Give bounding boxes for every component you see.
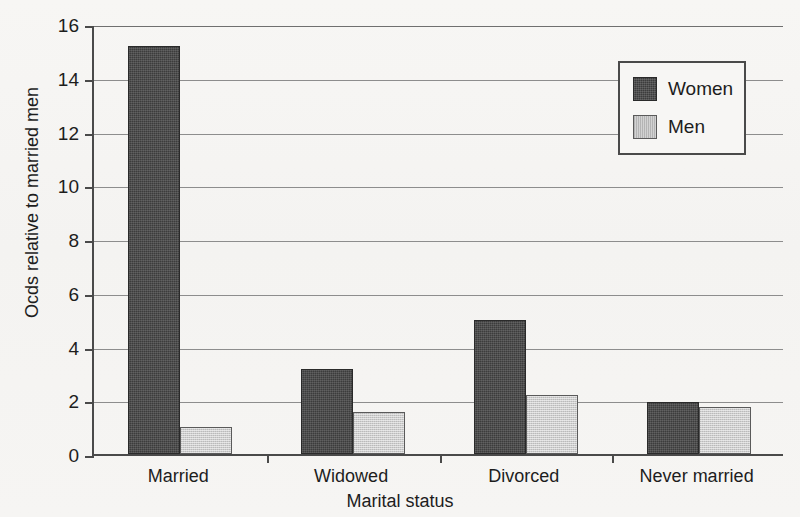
y-axis-tick xyxy=(85,187,94,189)
gridline xyxy=(94,349,783,350)
x-axis-label-widowed: Widowed xyxy=(314,466,388,487)
y-axis-tick xyxy=(85,349,94,351)
x-axis-label-divorced: Divorced xyxy=(488,466,559,487)
y-axis-tick xyxy=(85,134,94,136)
x-axis-title: Marital status xyxy=(0,491,800,512)
y-axis-tick xyxy=(85,26,94,28)
y-axis-tick xyxy=(85,80,94,82)
bar-women-divorced xyxy=(474,320,526,454)
bar-women-widowed xyxy=(301,369,353,454)
men-swatch-icon xyxy=(633,115,657,139)
x-axis-tick xyxy=(440,454,442,463)
gridline xyxy=(94,241,783,242)
gridline xyxy=(94,187,783,188)
women-swatch-icon xyxy=(633,77,657,101)
legend: Women Men xyxy=(618,61,746,155)
legend-label-men: Men xyxy=(668,116,705,138)
y-axis-tick xyxy=(85,456,94,458)
bar-men-widowed xyxy=(353,412,405,454)
legend-entry-men: Men xyxy=(633,115,705,139)
y-axis-title: Ocds relative to married men xyxy=(22,38,43,368)
bar-men-divorced xyxy=(526,395,578,454)
gridline xyxy=(94,295,783,296)
bar-men-never-married xyxy=(699,407,751,454)
x-axis-label-married: Married xyxy=(148,466,209,487)
y-axis-tick xyxy=(85,241,94,243)
bar-men-married xyxy=(180,427,232,454)
chart-figure: 0246810121416 MarriedWidowedDivorcedNeve… xyxy=(0,0,800,517)
x-axis-tick xyxy=(267,454,269,463)
x-axis-label-never-married: Never married xyxy=(640,466,754,487)
y-axis-tick xyxy=(85,402,94,404)
y-axis-tick xyxy=(85,295,94,297)
y-axis-tick-label: 0 xyxy=(33,445,79,467)
x-axis-tick xyxy=(612,454,614,463)
gridline xyxy=(94,26,783,27)
y-axis-tick-label: 16 xyxy=(33,15,79,37)
legend-label-women: Women xyxy=(668,78,733,100)
y-axis-tick-label: 2 xyxy=(33,391,79,413)
bar-women-married xyxy=(128,46,180,455)
bar-women-never-married xyxy=(647,402,699,454)
legend-entry-women: Women xyxy=(633,77,733,101)
